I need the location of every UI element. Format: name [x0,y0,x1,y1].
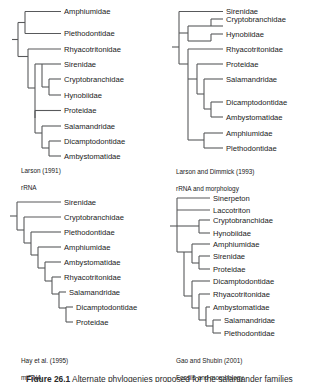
tip-label: Dicamptodontidae [226,98,287,107]
tip-label: Ambystomatidae [64,258,121,267]
tip-label: Amphiumidae [213,240,259,249]
cladogram-gao-shubin-2001: Sinerpeton Laccotriton Cryptobranchidae … [166,190,323,348]
figure-caption-text: Alternate phylogenies proposed for the s… [72,374,293,382]
tip-label: Proteidae [76,318,109,327]
tip-label: Ambystomatidae [64,152,121,161]
panel-source: Larson and Dimmick (1993) [176,168,255,176]
tip-label: Salamandridae [224,316,275,325]
tip-label: Ambystomatidae [226,113,283,122]
tip-label: Hynobiidae [64,91,102,100]
tip-label: Dicamptodontidae [64,137,125,146]
tip-label: Sirenidae [213,252,245,261]
tip-label: Rhyacotritonidae [213,290,270,299]
tip-label: Rhyacotritonidae [226,45,283,54]
tip-label: Plethodontidae [64,228,115,237]
tip-label: Plethodontidae [64,29,115,38]
tree-panel-gao-shubin-2001: Sinerpeton Laccotriton Cryptobranchidae … [166,190,323,368]
panel-caption-larson-dimmick-1993: Larson and Dimmick (1993) rRNA and morph… [176,160,255,201]
cladogram-larson-1991: Amphiumidae Plethodontidae Rhyacotritoni… [4,2,162,160]
tip-label: Rhyacotritonidae [64,273,121,282]
tip-label: Amphiumidae [226,129,272,138]
tip-label: Hynobiidae [213,229,251,238]
tip-label: Laccotriton [213,206,250,215]
tip-label: Proteidae [226,60,259,69]
tip-label: Salamandridae [64,122,115,131]
panel-datatype: rRNA [21,184,61,192]
tree-panel-larson-dimmick-1993: Sirenidae Cryptobranchidae Hynobiidae Rh… [166,2,323,184]
figure-caption: Figure 26.1 Alternate phylogenies propos… [26,374,316,382]
tip-label: Sirenidae [64,198,96,207]
phylogeny-figure: Amphiumidae Plethodontidae Rhyacotritoni… [0,0,323,382]
figure-number: Figure 26.1 [26,374,70,382]
tip-label: Amphiumidae [64,7,110,16]
tip-label: Cryptobranchidae [64,75,124,84]
tree-panel-larson-1991: Amphiumidae Plethodontidae Rhyacotritoni… [4,2,162,184]
tree-panel-hay-1995: Sirenidae Cryptobranchidae Plethodontida… [4,190,162,368]
tip-label: Hynobiidae [226,30,264,39]
tip-label: Sirenidae [64,60,96,69]
tip-label: Dicamptodontidae [76,303,137,312]
panel-caption-larson-1991: Larson (1991) rRNA [21,159,61,200]
cladogram-hay-1995: Sirenidae Cryptobranchidae Plethodontida… [4,190,162,348]
panel-source: Gao and Shubin (2001) [176,357,244,365]
tip-label: Amphiumidae [64,243,110,252]
tip-label: Ambystomatidae [213,303,270,312]
tip-label: Dicamptodontidae [213,277,274,286]
panel-source: Hay et al. (1995) [21,357,68,365]
tip-label: Plethodontidae [224,329,275,338]
tip-label: Proteidae [64,106,97,115]
tip-label: Cryptobranchidae [64,213,124,222]
tip-label: Cryptobranchidae [226,15,286,24]
panel-source: Larson (1991) [21,167,61,175]
tip-label: Salamandridae [226,75,277,84]
cladogram-larson-dimmick-1993: Sirenidae Cryptobranchidae Hynobiidae Rh… [166,2,323,160]
tip-label: Proteidae [213,265,246,274]
tip-label: Rhyacotritonidae [64,45,121,54]
panel-datatype: rRNA and morphology [176,185,255,193]
tip-label: Salamandridae [69,288,120,297]
tip-label: Plethodontidae [226,144,277,153]
tip-label: Cryptobranchidae [213,216,273,225]
